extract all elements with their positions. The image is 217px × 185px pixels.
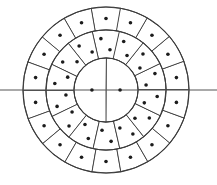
- outer-ring-dot: [104, 160, 108, 164]
- middle-ring-dot: [109, 140, 113, 144]
- outer-ring-dot: [42, 124, 46, 128]
- middle-ring-dot: [138, 66, 142, 70]
- outer-ring-dot: [34, 101, 38, 105]
- outer-ring-dot: [80, 21, 84, 25]
- middle-ring-dot: [77, 44, 81, 48]
- middle-ring-dot: [133, 116, 137, 120]
- middle-ring-dot: [148, 116, 152, 120]
- outer-ring-dot: [150, 143, 154, 147]
- outer-ring-dot: [104, 17, 108, 21]
- outer-ring-dot: [150, 33, 154, 37]
- middle-ring-dot: [125, 54, 129, 58]
- middle-ring-dot: [141, 52, 145, 56]
- middle-ring-dot: [66, 75, 70, 79]
- middle-ring-dot: [87, 137, 91, 141]
- outer-ring-dot: [166, 124, 170, 128]
- outer-ring-dot: [175, 76, 179, 80]
- middle-ring-dot: [155, 95, 159, 99]
- outer-ring-dot: [175, 101, 179, 105]
- middle-ring-dot: [83, 123, 87, 127]
- outer-ring-dot: [58, 143, 62, 147]
- middle-ring-dot: [153, 72, 157, 76]
- middle-ring-dot: [144, 83, 148, 87]
- inner-circle-dot: [118, 88, 122, 92]
- outer-ring-dot: [42, 52, 46, 56]
- middle-ring-dot: [75, 60, 79, 64]
- middle-ring-dot: [67, 124, 71, 128]
- middle-ring-dot: [70, 110, 74, 114]
- outer-ring-dot: [129, 21, 133, 25]
- outer-ring-dot: [80, 155, 84, 159]
- figure-root: [0, 0, 217, 185]
- outer-ring-dot: [166, 52, 170, 56]
- middle-ring-dot: [53, 82, 57, 86]
- middle-ring-dot: [143, 101, 147, 105]
- middle-ring-dot: [99, 37, 103, 41]
- outer-ring-dot: [129, 155, 133, 159]
- middle-ring-dot: [108, 48, 112, 52]
- middle-ring-dot: [122, 40, 126, 44]
- middle-ring-dot: [90, 50, 94, 54]
- middle-ring-dot: [131, 132, 135, 136]
- middle-ring-dot: [100, 128, 104, 132]
- middle-ring-dot: [61, 60, 65, 64]
- concentric-ring-diagram: [0, 0, 217, 185]
- outer-ring-dot: [58, 33, 62, 37]
- middle-ring-dot: [55, 105, 59, 109]
- inner-circle-dot: [90, 88, 94, 92]
- middle-ring-dot: [118, 126, 122, 130]
- middle-ring-dot: [64, 93, 68, 97]
- outer-ring-dot: [34, 76, 38, 80]
